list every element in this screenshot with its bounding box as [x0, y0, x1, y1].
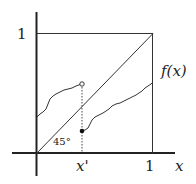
open-circle-point — [80, 82, 84, 86]
x-axis-label: x — [175, 157, 184, 175]
y-one-label: 1 — [17, 25, 27, 43]
angle-label: 45° — [53, 136, 71, 147]
diagram-canvas: 1 1 x x' f(x) 45° — [0, 0, 196, 184]
x-prime-label: x' — [76, 157, 89, 175]
filled-point — [80, 129, 85, 134]
function-curve-right — [82, 82, 153, 131]
function-curve-left — [37, 85, 80, 118]
function-label: f(x) — [160, 62, 187, 80]
x-one-label: 1 — [145, 157, 155, 175]
